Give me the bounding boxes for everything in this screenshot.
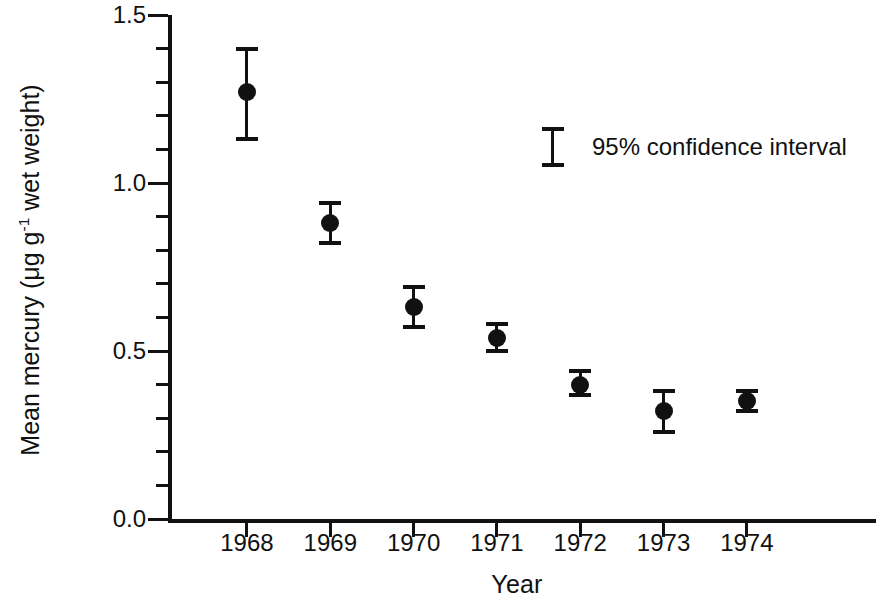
y-axis-title-prefix: Mean mercury (μg g	[16, 231, 44, 455]
y-axis-minor-tick	[156, 249, 168, 252]
y-axis-minor-tick	[156, 215, 168, 218]
x-axis-tick-label: 1974	[720, 529, 773, 557]
y-axis-major-tick	[148, 14, 168, 17]
y-axis-tick-label-text: 0.5	[62, 337, 146, 365]
legend-label-confidence-interval: 95% confidence interval	[592, 133, 847, 161]
y-axis-title-superscript: -1	[15, 218, 32, 232]
y-axis-minor-tick	[156, 316, 168, 319]
error-bar-bottom-cap	[736, 409, 758, 413]
error-bar-icon	[540, 127, 566, 167]
data-point-marker	[738, 392, 756, 410]
x-axis-tick-label: 1972	[554, 529, 607, 557]
y-axis-major-tick	[148, 350, 168, 353]
error-bar-bottom-cap	[653, 430, 675, 434]
x-axis-tick-label: 1970	[387, 529, 440, 557]
y-axis-tick-label-text: 1.0	[62, 169, 146, 197]
x-axis-title: Year	[0, 570, 890, 599]
y-axis-minor-tick	[156, 47, 168, 50]
y-axis-major-tick	[148, 518, 168, 521]
data-point-marker	[488, 329, 506, 347]
data-point-marker	[405, 298, 423, 316]
y-axis-minor-tick	[156, 383, 168, 386]
y-axis-minor-tick	[156, 450, 168, 453]
x-axis-tick-label: 1973	[637, 529, 690, 557]
y-axis-tick-label-text: 0.0	[62, 505, 146, 533]
data-point-marker	[321, 214, 339, 232]
y-axis-minor-tick	[156, 484, 168, 487]
data-point-marker	[238, 83, 256, 101]
error-bar-bottom-cap	[236, 137, 258, 141]
y-axis-minor-tick	[156, 148, 168, 151]
y-axis-minor-tick	[156, 81, 168, 84]
y-axis-minor-tick	[156, 417, 168, 420]
error-bar-bottom-cap	[486, 349, 508, 353]
y-axis-title: Mean mercury (μg g-1 wet weight)	[0, 0, 60, 540]
mercury-vs-year-chart: Mean mercury (μg g-1 wet weight) 0.00.51…	[0, 0, 890, 609]
x-axis-tick-label: 1971	[470, 529, 523, 557]
y-axis-title-suffix: wet weight)	[16, 84, 44, 217]
x-axis-tick-label: 1968	[220, 529, 273, 557]
error-bar-icon-bottom-cap	[542, 163, 564, 167]
x-axis-title-text: Year	[491, 570, 542, 599]
error-bar-icon-stem	[551, 127, 554, 167]
error-bar-bottom-cap	[319, 241, 341, 245]
error-bar-bottom-cap	[403, 325, 425, 329]
y-axis-tick-label-text: 1.5	[62, 1, 146, 29]
x-axis-tick-label: 1969	[304, 529, 357, 557]
y-axis-line	[168, 15, 172, 519]
data-point-marker	[655, 402, 673, 420]
x-axis-line	[168, 519, 876, 523]
legend: 95% confidence interval	[540, 118, 847, 176]
y-axis-minor-tick	[156, 282, 168, 285]
data-point-marker	[571, 376, 589, 394]
y-axis-minor-tick	[156, 114, 168, 117]
y-axis-major-tick	[148, 182, 168, 185]
